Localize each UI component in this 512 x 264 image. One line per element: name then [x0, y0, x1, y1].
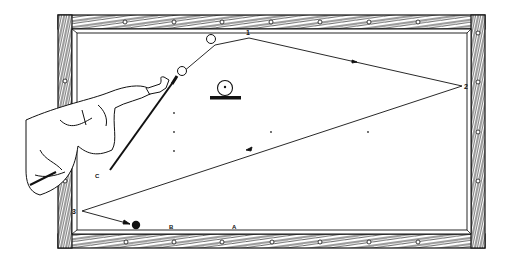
object-ball-1	[207, 35, 216, 44]
billiard-illustration: 1 2 3 A B C	[0, 0, 512, 264]
spot-c-label: C	[95, 173, 99, 179]
cushion-point-3-label: 3	[72, 208, 76, 215]
target-ball	[132, 221, 140, 229]
spot-b-label: B	[169, 224, 173, 230]
spot-a-label: A	[232, 224, 236, 230]
cue-ball	[178, 67, 187, 76]
table-drawing	[0, 0, 512, 264]
cushion-point-2-label: 2	[464, 83, 468, 90]
cushion-point-1-label: 1	[246, 29, 250, 36]
